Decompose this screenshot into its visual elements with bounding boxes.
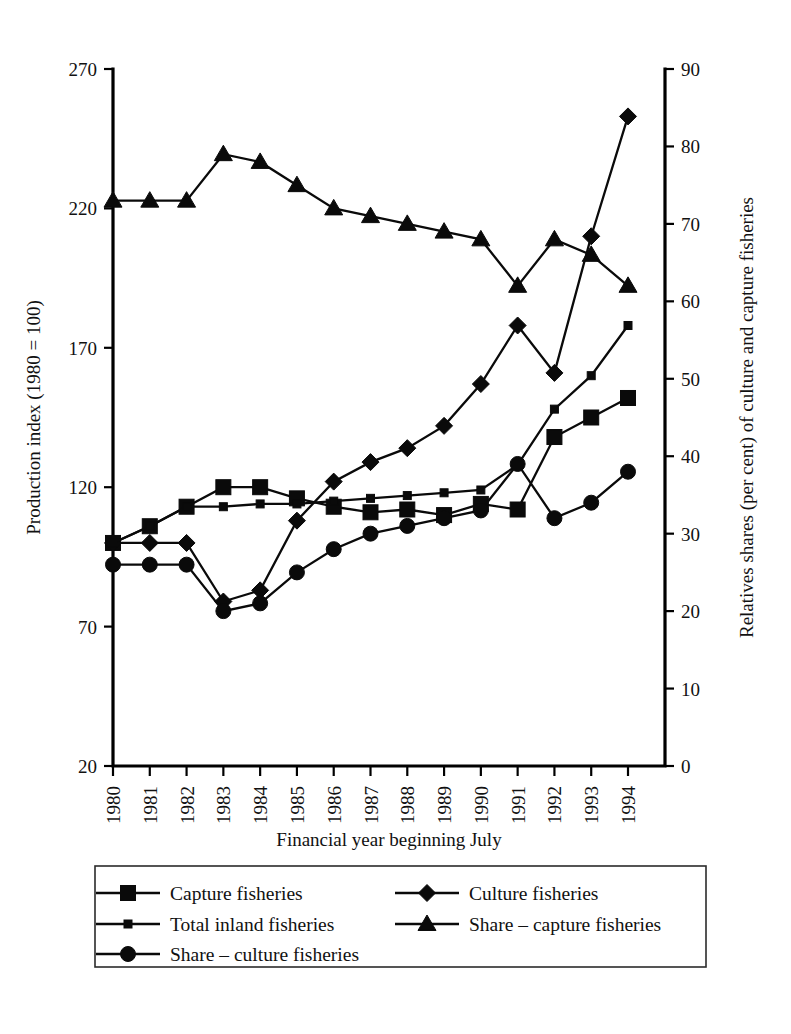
marker-circle — [547, 511, 562, 526]
marker-small-square — [440, 489, 448, 497]
marker-square — [363, 505, 378, 520]
x-axis-tick-label: 1983 — [213, 786, 234, 824]
marker-circle — [326, 542, 341, 557]
x-axis-title: Financial year beginning July — [276, 829, 502, 850]
marker-small-square — [109, 539, 117, 547]
x-axis-tick-label: 1993 — [581, 786, 602, 824]
x-axis-tick-label: 1984 — [250, 786, 271, 825]
x-axis-tick-label: 1990 — [471, 786, 492, 824]
marker-triangle — [288, 176, 306, 191]
marker-triangle — [545, 230, 563, 245]
y2-axis-tick-label: 10 — [681, 679, 700, 700]
marker-circle — [621, 464, 636, 479]
marker-circle — [216, 604, 231, 619]
marker-small-square — [624, 321, 632, 329]
marker-small-square — [330, 497, 338, 505]
y-axis-tick-label: 270 — [69, 59, 98, 80]
legend-item-capture-fisheries[interactable]: Capture fisheries — [96, 883, 303, 904]
y2-axis-tick-label: 30 — [681, 524, 700, 545]
x-axis-tick-label: 1987 — [361, 786, 382, 824]
marker-triangle — [104, 192, 122, 207]
marker-diamond — [620, 108, 637, 125]
x-axis-tick-label: 1986 — [324, 786, 345, 824]
marker-small-square — [367, 494, 375, 502]
y2-axis-tick-label: 80 — [681, 136, 700, 157]
legend-item-label: Culture fisheries — [469, 883, 598, 904]
marker-square — [121, 886, 136, 901]
marker-small-square — [256, 500, 264, 508]
marker-circle — [121, 947, 136, 962]
marker-circle — [510, 456, 525, 471]
marker-diamond — [141, 534, 158, 551]
marker-circle — [253, 596, 268, 611]
marker-circle — [363, 526, 378, 541]
chart-figure: 2070120170220270010203040506070809019801… — [0, 0, 791, 1034]
marker-small-square — [403, 492, 411, 500]
marker-circle — [400, 518, 415, 533]
marker-triangle — [214, 145, 232, 160]
x-axis-tick-label: 1980 — [103, 786, 124, 824]
legend-item-label: Share – culture fisheries — [170, 944, 359, 965]
marker-small-square — [587, 372, 595, 380]
chart-svg: 2070120170220270010203040506070809019801… — [0, 0, 791, 1034]
series-share-capture-fisheries — [104, 145, 637, 292]
x-axis-tick-label: 1982 — [177, 786, 198, 824]
y-axis-tick-label: 170 — [69, 338, 98, 359]
marker-circle — [584, 495, 599, 510]
plot-layer: 2070120170220270010203040506070809019801… — [23, 59, 758, 967]
legend-item-label: Total inland fisheries — [170, 914, 334, 935]
y2-axis-tick-label: 60 — [681, 291, 700, 312]
marker-square — [253, 480, 268, 495]
y2-axis-tick-label: 40 — [681, 446, 700, 467]
marker-square — [216, 480, 231, 495]
x-axis-tick-label: 1981 — [140, 786, 161, 824]
marker-circle — [142, 557, 157, 572]
legend-item-label: Capture fisheries — [170, 883, 303, 904]
marker-square — [584, 410, 599, 425]
marker-small-square — [183, 503, 191, 511]
y2-axis-tick-label: 50 — [681, 369, 700, 390]
marker-diamond — [362, 454, 379, 471]
y-axis-title: Production index (1980 = 100) — [23, 300, 45, 534]
x-axis-tick-label: 1985 — [287, 786, 308, 824]
marker-square — [621, 390, 636, 405]
y2-axis-tick-label: 20 — [681, 601, 700, 622]
x-axis-tick-label: 1994 — [618, 786, 639, 825]
y2-axis-tick-label: 70 — [681, 214, 700, 235]
marker-circle — [106, 557, 121, 572]
marker-triangle — [141, 192, 159, 207]
marker-small-square — [477, 486, 485, 494]
y-axis-tick-label: 120 — [69, 477, 98, 498]
marker-triangle — [325, 199, 343, 214]
axis-frame — [113, 69, 665, 766]
marker-diamond — [583, 228, 600, 245]
marker-square — [510, 502, 525, 517]
x-axis-tick-label: 1992 — [544, 786, 565, 824]
marker-small-square — [293, 500, 301, 508]
marker-circle — [437, 511, 452, 526]
marker-circle — [179, 557, 194, 572]
y-axis-tick-label: 220 — [69, 198, 98, 219]
marker-square — [400, 502, 415, 517]
marker-triangle — [582, 246, 600, 261]
y-axis-tick-label: 70 — [78, 617, 97, 638]
legend-item-label: Share – capture fisheries — [469, 914, 661, 935]
marker-small-square — [219, 503, 227, 511]
y2-axis-tick-label: 0 — [681, 756, 691, 777]
marker-diamond — [178, 534, 195, 551]
x-axis-tick-label: 1988 — [397, 786, 418, 824]
marker-square — [547, 430, 562, 445]
marker-circle — [473, 503, 488, 518]
x-axis-tick-label: 1991 — [508, 786, 529, 824]
y2-axis-title: Relatives shares (per cent) of culture a… — [736, 197, 758, 638]
marker-circle — [289, 565, 304, 580]
y-axis-tick-label: 20 — [78, 756, 97, 777]
marker-small-square — [146, 522, 154, 530]
marker-small-square — [550, 405, 558, 413]
marker-diamond — [399, 440, 416, 457]
marker-small-square — [124, 920, 132, 928]
y2-axis-tick-label: 90 — [681, 59, 700, 80]
x-axis-tick-label: 1989 — [434, 786, 455, 824]
